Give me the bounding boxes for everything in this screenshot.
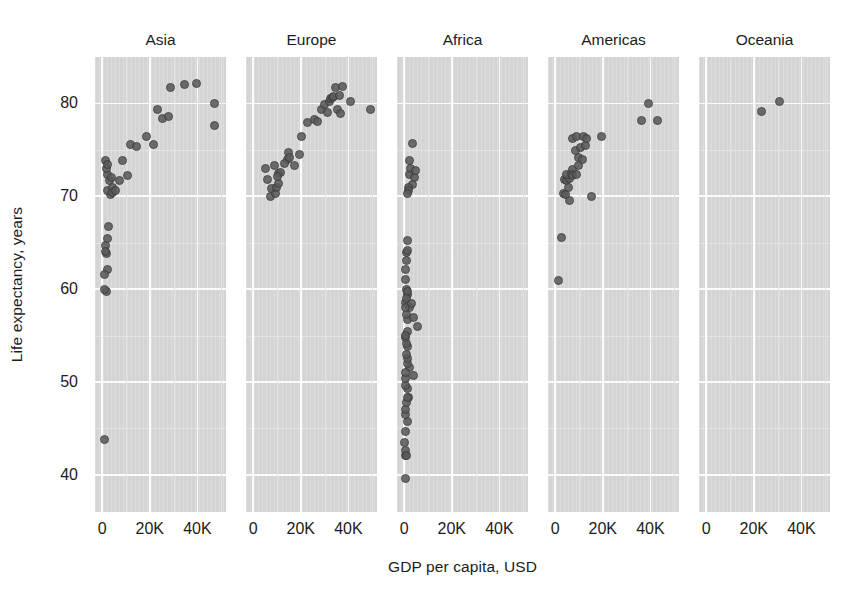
x-tick-label: 40K xyxy=(625,521,675,537)
x-tick-label: 40K xyxy=(323,521,373,537)
data-point xyxy=(313,117,322,126)
gridline-major-horizontal xyxy=(95,474,226,476)
panel-americas xyxy=(548,57,679,512)
data-point xyxy=(263,175,272,184)
data-point xyxy=(578,155,587,164)
data-point xyxy=(153,105,162,114)
gridline-major-horizontal xyxy=(246,103,377,105)
data-point xyxy=(104,222,113,231)
gridline-major-vertical xyxy=(300,57,302,512)
data-point xyxy=(554,276,563,285)
data-point xyxy=(775,97,784,106)
gridline-minor-vertical xyxy=(476,57,477,512)
y-axis-title: Life expectancy, years xyxy=(8,51,30,518)
gridline-major-vertical xyxy=(650,57,652,512)
gridline-minor-horizontal xyxy=(699,428,830,429)
gridline-minor-vertical xyxy=(627,57,628,512)
x-tick-label: 0 xyxy=(379,521,429,537)
gridline-minor-vertical xyxy=(428,57,429,512)
data-point xyxy=(597,132,606,141)
gridline-minor-horizontal xyxy=(548,150,679,151)
facet-title-americas: Americas xyxy=(548,32,679,48)
gridline-minor-vertical xyxy=(277,57,278,512)
data-point xyxy=(401,427,410,436)
data-point xyxy=(587,192,596,201)
y-tick-label: 70 xyxy=(38,188,78,204)
gridline-major-vertical xyxy=(149,57,151,512)
gridline-minor-vertical xyxy=(730,57,731,512)
gridline-major-horizontal xyxy=(397,474,528,476)
data-point xyxy=(557,233,566,242)
facet-title-africa: Africa xyxy=(397,32,528,48)
gridline-major-horizontal xyxy=(246,474,377,476)
data-point xyxy=(297,132,306,141)
data-point xyxy=(402,256,411,265)
x-tick-label: 40K xyxy=(172,521,222,537)
data-point xyxy=(409,371,418,380)
gridline-minor-horizontal xyxy=(397,336,528,337)
gridline-major-horizontal xyxy=(246,381,377,383)
panel-texture xyxy=(95,57,226,512)
panel-africa xyxy=(397,57,528,512)
gridline-major-vertical xyxy=(753,57,755,512)
gridline-minor-horizontal xyxy=(95,428,226,429)
facet-title-oceania: Oceania xyxy=(699,32,830,48)
gridline-major-horizontal xyxy=(95,381,226,383)
x-tick-label: 0 xyxy=(228,521,278,537)
gridline-minor-horizontal xyxy=(397,150,528,151)
data-point xyxy=(413,322,422,331)
data-point xyxy=(210,121,219,130)
gridline-minor-horizontal xyxy=(548,336,679,337)
y-tick-label: 80 xyxy=(38,95,78,111)
panel-europe xyxy=(246,57,377,512)
data-point xyxy=(100,270,109,279)
gridline-minor-horizontal xyxy=(246,336,377,337)
gridline-major-vertical xyxy=(801,57,803,512)
data-point xyxy=(180,80,189,89)
data-point xyxy=(192,79,201,88)
panel-texture xyxy=(397,57,528,512)
data-point xyxy=(346,97,355,106)
gridline-major-horizontal xyxy=(95,288,226,290)
gridline-minor-vertical xyxy=(674,57,675,512)
x-axis-title: GDP per capita, USD xyxy=(95,558,830,576)
scatter-chart-figure: Life expectancy, years 4050607080 Asia02… xyxy=(0,0,856,603)
gridline-minor-horizontal xyxy=(548,428,679,429)
data-point xyxy=(210,99,219,108)
gridline-minor-horizontal xyxy=(246,150,377,151)
x-tick-label: 0 xyxy=(77,521,127,537)
data-point xyxy=(100,285,109,294)
panel-texture xyxy=(548,57,679,512)
y-tick-label: 50 xyxy=(38,374,78,390)
gridline-minor-vertical xyxy=(372,57,373,512)
gridline-major-horizontal xyxy=(397,288,528,290)
x-tick-label: 40K xyxy=(474,521,524,537)
gridline-minor-vertical xyxy=(174,57,175,512)
gridline-major-vertical xyxy=(602,57,604,512)
x-tick-label: 20K xyxy=(125,521,175,537)
data-point xyxy=(111,186,120,195)
gridline-minor-vertical xyxy=(126,57,127,512)
gridline-major-horizontal xyxy=(397,195,528,197)
data-point xyxy=(261,164,270,173)
gridline-minor-horizontal xyxy=(246,243,377,244)
gridline-minor-horizontal xyxy=(95,150,226,151)
data-point xyxy=(403,189,412,198)
data-point xyxy=(401,368,410,377)
data-point xyxy=(637,116,646,125)
gridline-major-horizontal xyxy=(397,381,528,383)
data-point xyxy=(103,160,112,169)
data-point xyxy=(338,82,347,91)
gridline-minor-horizontal xyxy=(699,336,830,337)
gridline-minor-vertical xyxy=(778,57,779,512)
data-point xyxy=(366,105,375,114)
gridline-major-vertical xyxy=(197,57,199,512)
data-point xyxy=(582,134,591,143)
data-point xyxy=(644,99,653,108)
data-point xyxy=(401,275,410,284)
gridline-major-vertical xyxy=(705,57,707,512)
data-point xyxy=(336,109,345,118)
gridline-minor-horizontal xyxy=(548,243,679,244)
data-point xyxy=(290,161,299,170)
data-point xyxy=(757,107,766,116)
